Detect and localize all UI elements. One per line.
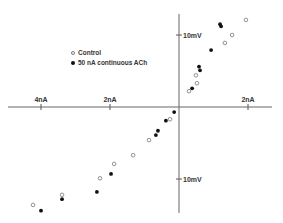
control-point — [194, 74, 198, 78]
x-tick-label: 2nA — [241, 96, 254, 103]
ach-point — [219, 24, 223, 28]
ach-point — [109, 172, 113, 176]
control-point — [98, 176, 102, 180]
control-point — [223, 41, 227, 45]
ach-point — [156, 129, 160, 133]
ach-point — [154, 133, 158, 137]
ach-point — [198, 68, 202, 72]
legend-item-ach: 50 nA continuous ACh — [71, 58, 147, 68]
filled-circle-icon — [71, 61, 75, 65]
control-point — [31, 203, 35, 207]
control-point — [244, 18, 248, 22]
control-point — [230, 33, 234, 37]
y-tick-label: 10mV — [183, 32, 202, 39]
ach-point — [197, 65, 201, 69]
axes — [8, 14, 272, 213]
control-point — [195, 81, 199, 85]
control-point — [187, 89, 191, 93]
open-circle-icon — [71, 51, 75, 55]
x-tick-label: 4nA — [34, 96, 47, 103]
ach-point — [164, 119, 168, 123]
control-point — [147, 138, 151, 142]
ach-point — [209, 48, 213, 52]
control-point — [168, 117, 172, 121]
control-point — [112, 162, 116, 166]
legend: Control 50 nA continuous ACh — [71, 48, 147, 68]
y-tick-label: 10mV — [183, 176, 202, 183]
ach-point — [190, 86, 194, 90]
legend-label: 50 nA continuous ACh — [78, 58, 147, 68]
ach-point — [39, 209, 43, 213]
x-tick-label: 2nA — [103, 96, 116, 103]
ach-point — [95, 190, 99, 194]
ach-point — [172, 110, 176, 114]
legend-item-control: Control — [71, 48, 147, 58]
control-point — [60, 193, 64, 197]
iv-scatter-plot: 4nA2nA2nA10mV10mV — [0, 0, 283, 223]
legend-label: Control — [78, 48, 101, 58]
ach-point — [60, 197, 64, 201]
control-point — [131, 153, 135, 157]
